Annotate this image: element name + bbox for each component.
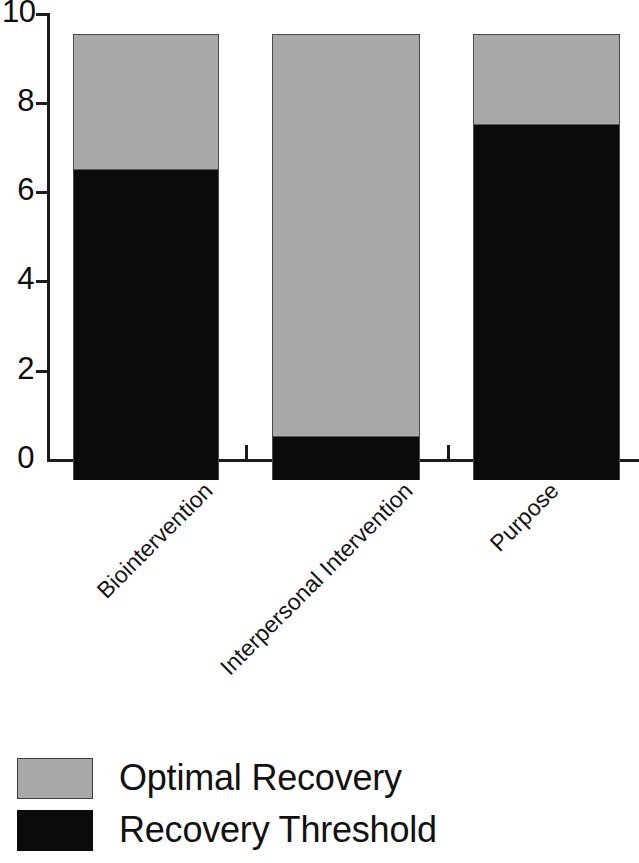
plot-area: 10 8 6 4 2 0 <box>0 0 639 480</box>
legend-label-optimal-recovery: Optimal Recovery <box>119 759 402 797</box>
legend-item-optimal-recovery[interactable]: Optimal Recovery <box>17 752 617 804</box>
y-tick-mark-10 <box>36 13 50 16</box>
y-tick-label-4: 4 <box>2 263 34 294</box>
bar-segment-recovery-threshold <box>74 169 218 480</box>
bar-segment-recovery-threshold <box>273 436 419 480</box>
legend-label-recovery-threshold: Recovery Threshold <box>119 811 437 849</box>
bar-segment-recovery-threshold <box>474 124 619 480</box>
bar-segment-optimal-recovery <box>74 35 218 169</box>
legend-swatch-optimal-recovery <box>17 758 93 799</box>
y-tick-mark-2 <box>36 370 50 373</box>
bar-segment-optimal-recovery <box>474 35 619 124</box>
bar-biointervention[interactable] <box>73 34 219 480</box>
legend-swatch-recovery-threshold <box>17 810 93 851</box>
bar-segment-optimal-recovery <box>273 35 419 436</box>
y-tick-label-6: 6 <box>2 174 34 205</box>
y-tick-label-0: 0 <box>2 442 34 473</box>
x-tick-mark-2 <box>447 445 450 461</box>
chart-legend: Optimal Recovery Recovery Threshold <box>17 752 617 856</box>
y-tick-label-10: 10 <box>2 0 34 27</box>
y-tick-mark-4 <box>36 280 50 283</box>
x-tick-mark-1 <box>245 445 248 461</box>
y-tick-label-8: 8 <box>2 85 34 116</box>
stacked-bar-chart: 10 8 6 4 2 0 <box>0 0 639 863</box>
y-tick-mark-8 <box>36 102 50 105</box>
x-axis-label-biointervention: Biointervention <box>59 478 218 637</box>
bar-interpersonal-intervention[interactable] <box>272 34 420 480</box>
y-tick-mark-6 <box>36 191 50 194</box>
bar-purpose[interactable] <box>473 34 620 480</box>
y-tick-label-2: 2 <box>2 353 34 384</box>
y-axis-line <box>47 14 50 462</box>
legend-item-recovery-threshold[interactable]: Recovery Threshold <box>17 804 617 856</box>
